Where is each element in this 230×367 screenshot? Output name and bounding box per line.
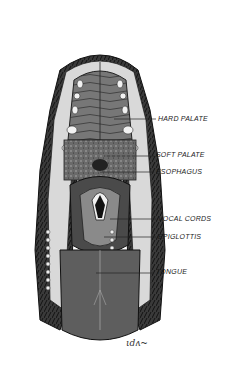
tongue-region [60, 250, 140, 340]
label-soft-palate: SOFT PALATE [156, 151, 205, 159]
artist-signature: ιdʌ~ [126, 338, 148, 348]
anatomy-figure: HARD PALATE SOFT PALATE ESOPHAGUS VOCAL … [0, 0, 230, 367]
label-vocal-cords: VOCAL CORDS [158, 215, 211, 223]
label-hard-palate: HARD PALATE [158, 115, 208, 123]
larynx-region [70, 177, 130, 254]
oral-cavity-illustration [0, 0, 230, 367]
soft-palate-region [64, 140, 136, 180]
label-tongue: TONGUE [156, 268, 187, 276]
label-epiglottis: EPIGLOTTIS [158, 233, 201, 241]
label-esophagus: ESOPHAGUS [156, 168, 202, 176]
